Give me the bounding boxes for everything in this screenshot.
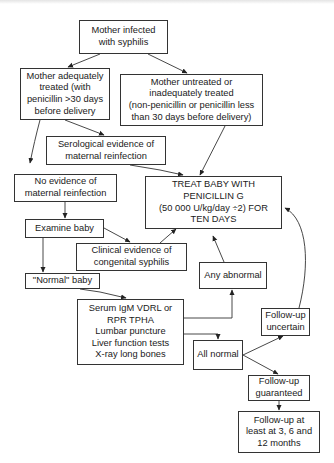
node-mother-infected: Mother infected with syphilis [79, 20, 168, 54]
node-label: Mother untreated or inadequately treated… [129, 77, 255, 123]
node-normal-baby: "Normal" baby [25, 273, 100, 289]
node-label: Follow-up guaranteed [255, 376, 302, 399]
node-treat-baby: TREAT BABY WITH PENICILLIN G (50 000 U/k… [145, 176, 282, 229]
node-label: Mother infected with syphilis [91, 25, 155, 48]
node-serological-evidence: Serological evidence of maternal reinfec… [46, 136, 166, 165]
node-examine-baby: Examine baby [25, 219, 104, 238]
node-label: Any abnormal [204, 270, 261, 282]
node-label: "Normal" baby [33, 275, 92, 287]
node-all-normal: All normal [193, 340, 243, 370]
node-label: Serum IgM VDRL or RPR TPHA Lumbar punctu… [89, 303, 172, 361]
node-followup-uncertain: Follow-up uncertain [261, 308, 310, 336]
node-label: Examine baby [35, 223, 94, 235]
node-followup-schedule: Follow-up at least at 3, 6 and 12 months [238, 411, 320, 453]
node-adequately-treated: Mother adequately treated (with penicill… [20, 68, 110, 120]
node-label: TREAT BABY WITH PENICILLIN G (50 000 U/k… [159, 179, 268, 225]
node-no-evidence: No evidence of maternal reinfection [14, 174, 117, 202]
node-clinical-evidence: Clinical evidence of congenital syphilis [76, 243, 187, 271]
node-label: Serological evidence of maternal reinfec… [58, 139, 154, 162]
node-label: Mother adequately treated (with penicill… [26, 71, 103, 117]
node-tests: Serum IgM VDRL or RPR TPHA Lumbar punctu… [77, 299, 184, 365]
node-untreated: Mother untreated or inadequately treated… [120, 74, 263, 126]
node-any-abnormal: Any abnormal [199, 262, 267, 289]
node-label: Follow-up uncertain [265, 310, 305, 333]
node-label: Clinical evidence of congenital syphilis [91, 245, 171, 268]
node-label: Follow-up at least at 3, 6 and 12 months [246, 415, 312, 450]
node-label: No evidence of maternal reinfection [25, 176, 107, 199]
node-followup-guaranteed: Follow-up guaranteed [248, 375, 310, 401]
node-label: All normal [197, 349, 238, 361]
